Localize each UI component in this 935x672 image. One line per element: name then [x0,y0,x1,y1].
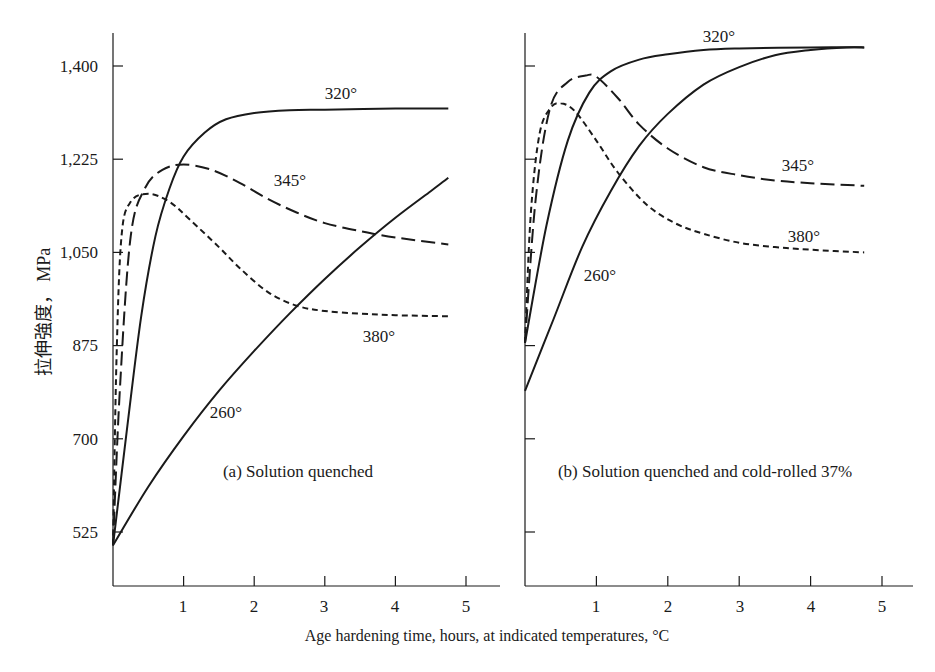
curve-345-line [525,74,864,343]
y-tick-labels: 1,400 1,225 1,050 875 700 525 [60,57,98,542]
curve-260-line [525,47,864,391]
x-tick-label: 1 [592,597,601,616]
panel-b-axes [525,33,913,586]
label-345: 345° [274,171,306,190]
curve-380-line [113,194,448,546]
x-tick-label: 3 [320,597,329,616]
label-260: 260° [210,403,242,422]
x-tick-label: 1 [179,597,188,616]
x-tick-label: 5 [462,597,471,616]
label-345: 345° [782,156,814,175]
panel-a-caption: (a) Solution quenched [223,462,374,481]
x-tick-label: 2 [250,597,259,616]
x-tick-label: 4 [807,597,816,616]
panel-b-curves [525,47,864,391]
label-320: 320° [703,27,735,46]
figure: 拉伸強度， MPa 1,400 1,225 1,050 875 700 525 … [0,0,935,672]
panel-a-x-tick-labels: 1 2 3 4 5 [179,597,471,616]
panel-a-curve-labels: 320° 345° 380° 260° [210,84,395,422]
x-tick-label: 2 [664,597,673,616]
panel-b-x-tick-labels: 1 2 3 4 5 [592,597,887,616]
y-tick-label: 1,225 [60,150,98,169]
x-tick-label: 4 [391,597,400,616]
curve-345-line [113,165,448,546]
y-tick-label: 1,050 [60,243,98,262]
y-axis-label: 拉伸強度， MPa [34,248,54,377]
panel-b-caption: (b) Solution quenched and cold-rolled 37… [558,462,852,481]
label-260: 260° [584,266,616,285]
label-380: 380° [788,227,820,246]
curve-380-line [525,103,864,343]
x-tick-label: 5 [878,597,887,616]
y-tick-label: 1,400 [60,57,98,76]
curve-260-line [113,178,448,546]
x-tick-label: 3 [736,597,745,616]
label-320: 320° [325,84,357,103]
panel-a-axes [113,33,500,586]
y-tick-label: 700 [73,430,99,449]
chart-canvas: 拉伸強度， MPa 1,400 1,225 1,050 875 700 525 … [0,0,935,672]
y-tick-label: 525 [73,523,99,542]
y-tick-label: 875 [73,336,99,355]
label-380: 380° [363,327,395,346]
x-axis-label: Age hardening time, hours, at indicated … [305,627,670,645]
